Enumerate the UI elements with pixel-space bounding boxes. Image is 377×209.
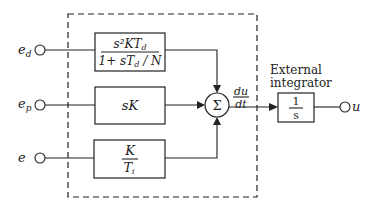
proportional-label: sK xyxy=(122,98,140,113)
output-label: u xyxy=(352,99,360,114)
integrator-numerator: 1 xyxy=(293,95,300,108)
integral-numerator: K xyxy=(124,143,136,158)
arrow-right-icon xyxy=(197,101,205,109)
arrow-up-icon xyxy=(213,117,221,125)
input-ed-terminal xyxy=(35,45,45,55)
integral-block: K Ti xyxy=(94,140,165,178)
svg-text:du: du xyxy=(234,85,248,98)
integral-to-sum-wire xyxy=(165,124,217,158)
arrow-down-icon xyxy=(213,85,221,93)
integrator-denominator: s xyxy=(293,109,299,122)
input-ed: ed xyxy=(18,42,95,59)
derivative-block: s²KTd 1+ sTd / N xyxy=(95,33,165,71)
derivative-to-sum-wire xyxy=(165,50,217,86)
external-integrator-label-line1: External xyxy=(270,63,322,77)
pid-block-diagram: ed ep e s²KTd 1+ sTd / N sK K Ti xyxy=(0,0,377,209)
svg-text:dt: dt xyxy=(235,98,247,111)
summing-junction: Σ xyxy=(205,93,229,117)
external-integrator-label-line2: integrator xyxy=(270,76,332,90)
input-ep-terminal xyxy=(35,100,45,110)
input-ed-label: ed xyxy=(18,42,32,59)
output-terminal xyxy=(340,102,350,112)
input-e-terminal xyxy=(35,153,45,163)
proportional-block: sK xyxy=(95,87,165,124)
arrow-right-icon xyxy=(269,103,278,111)
input-e: e xyxy=(18,150,94,165)
integrator-block: 1 s xyxy=(278,93,314,122)
input-ep-label: ep xyxy=(18,96,32,113)
input-e-label: e xyxy=(18,150,26,165)
derivative-denominator: 1+ sTd / N xyxy=(99,54,162,69)
input-ep: ep xyxy=(18,96,95,113)
sigma-symbol: Σ xyxy=(212,98,221,113)
